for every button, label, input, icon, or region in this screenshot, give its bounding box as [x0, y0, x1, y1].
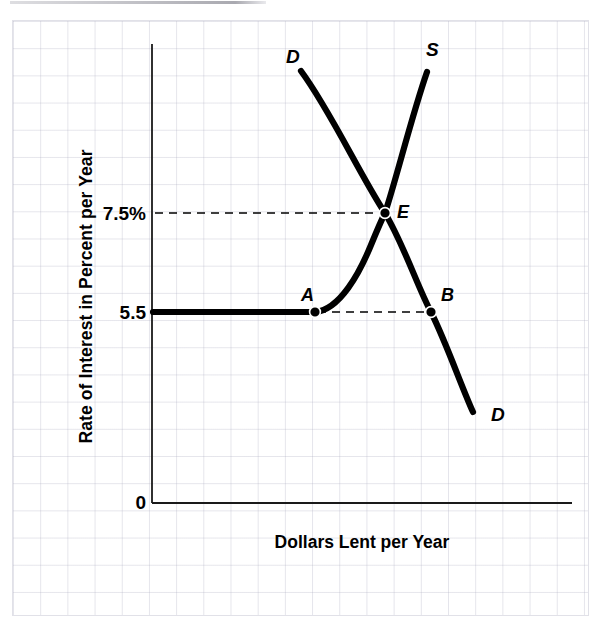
point-label-a: A — [301, 285, 314, 306]
y-axis-title: Rate of Interest in Percent per Year — [76, 127, 97, 467]
x-axis-title: Dollars Lent per Year — [152, 532, 572, 553]
supply-curve-label-top: S — [426, 39, 439, 61]
demand-curve-label-bottom: D — [491, 404, 505, 426]
data-point-b — [426, 307, 437, 318]
data-point-a — [310, 307, 321, 318]
point-label-b: B — [441, 285, 454, 306]
supply-curve — [153, 72, 427, 312]
data-point-e — [380, 208, 391, 219]
demand-curve-label-top: D — [286, 46, 300, 68]
point-label-e: E — [397, 202, 409, 223]
demand-curve — [301, 71, 473, 412]
y-tick-label-origin: 0 — [62, 492, 146, 514]
figure-canvas: 7.5% 5.5 0 D S D A B E Rate of Interest … — [0, 0, 602, 640]
